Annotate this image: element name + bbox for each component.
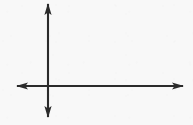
figure-canvas: Cartesian coordinate axes A pair of doub… (0, 0, 193, 125)
coordinate-axes-diagram: Cartesian coordinate axes A pair of doub… (0, 0, 193, 125)
horizontal-axis (16, 82, 184, 89)
vertical-axis (44, 3, 51, 118)
